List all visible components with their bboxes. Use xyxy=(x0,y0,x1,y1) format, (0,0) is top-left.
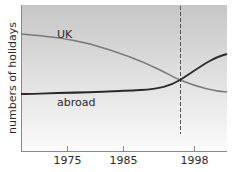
series-label-uk: UK xyxy=(57,28,73,41)
line-chart: UK abroad 1975 1985 1998 numbers of holi… xyxy=(0,0,232,172)
series-label-abroad: abroad xyxy=(57,96,95,109)
x-tick-label-1998: 1998 xyxy=(181,154,209,167)
x-tick-label-1975: 1975 xyxy=(54,154,82,167)
x-tick-label-1985: 1985 xyxy=(110,154,138,167)
plot-area xyxy=(21,5,227,151)
y-axis-label: numbers of holidays xyxy=(6,22,19,134)
